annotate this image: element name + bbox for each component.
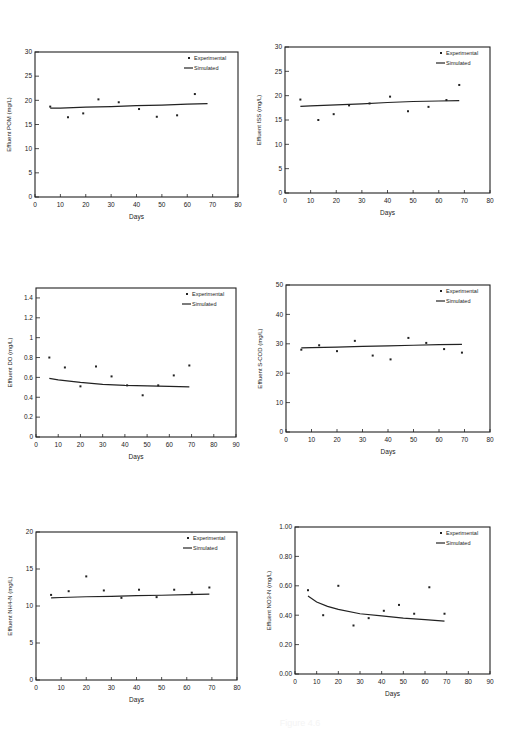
data-point (138, 108, 140, 110)
y-tick-label: 5 (28, 169, 32, 176)
data-point (425, 342, 427, 344)
data-point (413, 613, 415, 615)
data-point (333, 113, 335, 115)
series-simulated (308, 596, 445, 621)
x-tick-label: 70 (461, 436, 469, 443)
data-point (95, 365, 97, 367)
y-tick-label: 0.00 (279, 670, 292, 677)
y-tick-label: 0.4 (24, 394, 33, 401)
y-axis-label: Effluent NO3-N (mg/L) (266, 571, 272, 631)
x-axis: 0102030405060708090 (293, 671, 494, 685)
legend-experimental: Experimental (194, 55, 226, 61)
chart-iss: 01020304050607080Days051015202530Effluen… (251, 43, 496, 227)
data-point (368, 617, 370, 619)
x-tick-label: 30 (358, 197, 366, 204)
x-tick-label: 40 (384, 197, 392, 204)
x-tick-label: 0 (34, 684, 38, 691)
legend-simulated: Simulated (446, 540, 470, 546)
y-axis: 01020304050 (276, 281, 290, 435)
x-axis-label: Days (385, 690, 401, 698)
y-tick-label: 15 (25, 121, 33, 128)
series-simulated (301, 344, 462, 348)
data-point (97, 98, 99, 100)
series-simulated (49, 378, 189, 386)
x-tick-label: 30 (108, 201, 116, 208)
x-tick-label: 50 (410, 436, 418, 443)
data-point (458, 84, 460, 86)
x-tick-label: 40 (378, 678, 386, 685)
data-point (85, 575, 87, 577)
data-point (299, 99, 301, 101)
legend-experimental: Experimental (193, 535, 225, 541)
data-point (372, 355, 374, 357)
series-experimental (307, 585, 446, 627)
x-tick-label: 60 (184, 201, 192, 208)
y-tick-label: 30 (275, 43, 283, 50)
x-tick-label: 90 (486, 678, 494, 685)
x-tick-label: 60 (435, 197, 443, 204)
data-point (50, 594, 52, 596)
x-tick-label: 20 (333, 197, 341, 204)
y-tick-label: 0.80 (279, 553, 292, 560)
series-experimental (48, 357, 190, 397)
data-point (194, 93, 196, 95)
x-axis: 01020304050607080 (283, 190, 494, 204)
data-point (307, 589, 309, 591)
data-point (407, 337, 409, 339)
plot-iss: 01020304050607080Days051015202530Effluen… (251, 43, 496, 223)
data-point (461, 352, 463, 354)
data-point (322, 614, 324, 616)
x-tick-label: 0 (284, 436, 288, 443)
data-point (49, 106, 51, 108)
chart-scod: 01020304050607080Days01020304050Effluent… (252, 281, 496, 466)
x-tick-label: 70 (208, 684, 216, 691)
data-point (208, 587, 210, 589)
x-tick-label: 50 (400, 678, 408, 685)
y-axis: 051015202530 (275, 43, 289, 196)
y-tick-label: 25 (25, 72, 33, 79)
data-point (353, 624, 355, 626)
y-axis-label: Effluent S-COD (mg/L) (257, 328, 263, 388)
x-tick-label: 10 (313, 678, 321, 685)
chart-pom: 01020304050607080Days051015202530Effluen… (1, 48, 244, 231)
y-tick-label: 40 (276, 311, 284, 318)
x-tick-label: 40 (384, 436, 392, 443)
x-axis-label: Days (129, 213, 145, 221)
legend-simulated: Simulated (192, 301, 216, 307)
plot-do: 0102030405060708090Days00.20.40.60.811.2… (2, 284, 242, 467)
x-tick-label: 30 (359, 436, 367, 443)
series-simulated (300, 101, 459, 107)
plot-frame (36, 288, 236, 437)
legend: ExperimentalSimulated (436, 288, 478, 304)
data-point (443, 348, 445, 350)
legend: ExperimentalSimulated (436, 50, 478, 66)
y-tick-label: 0.2 (24, 413, 33, 420)
y-tick-label: 0.6 (24, 374, 33, 381)
x-tick-label: 0 (33, 201, 37, 208)
x-tick-label: 80 (233, 684, 241, 691)
data-point (407, 110, 409, 112)
y-tick-label: 15 (275, 116, 283, 123)
data-point (354, 340, 356, 342)
y-axis: 00.20.40.60.811.21.4 (24, 294, 40, 440)
data-point (64, 366, 66, 368)
x-tick-label: 80 (210, 441, 218, 448)
x-tick-label: 80 (486, 436, 494, 443)
data-point (383, 610, 385, 612)
plot-frame (36, 532, 237, 680)
legend-experimental: Experimental (446, 50, 478, 56)
data-point (82, 112, 84, 114)
data-point (118, 101, 120, 103)
x-tick-label: 30 (356, 678, 364, 685)
y-tick-label: 5 (29, 639, 33, 646)
series-simulated (51, 594, 209, 598)
x-tick-label: 50 (158, 684, 166, 691)
data-point (398, 604, 400, 606)
y-tick-label: 0 (29, 433, 33, 440)
legend-experimental: Experimental (192, 291, 224, 297)
legend: ExperimentalSimulated (182, 291, 224, 307)
data-point (188, 364, 190, 366)
figure-caption: Figure 4.6 (150, 718, 450, 728)
data-point (317, 119, 319, 121)
data-point (138, 589, 140, 591)
